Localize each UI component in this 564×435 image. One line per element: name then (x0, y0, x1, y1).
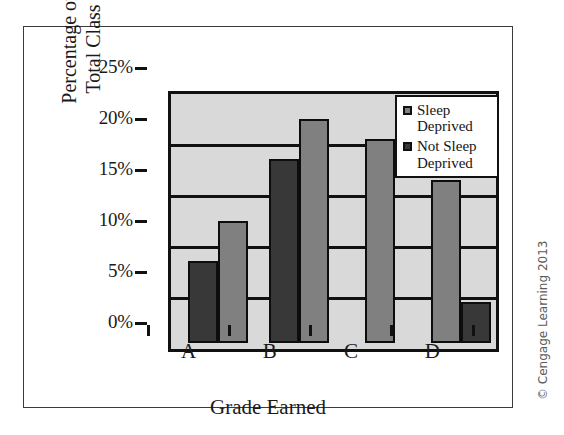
y-tick-mark-0 (135, 322, 147, 325)
y-tick-label-20: 20% (87, 107, 133, 129)
x-tick-mark-0 (147, 325, 150, 336)
legend-label-not-sleep-deprived: Not Sleep Deprived (417, 138, 477, 170)
y-tick-label-15: 15% (87, 158, 133, 180)
y-tick-label-10: 10% (87, 209, 133, 231)
x-category-label-C: C (344, 339, 358, 364)
y-tick-mark-25 (135, 67, 147, 70)
legend-item-sleep-deprived: Sleep Deprived (403, 102, 492, 134)
y-tick-label-0: 0% (87, 311, 133, 333)
x-axis-title: Grade Earned (24, 395, 512, 420)
legend-item-not-sleep-deprived: Not Sleep Deprived (403, 138, 492, 170)
gridline-5 (171, 297, 496, 300)
bar-D-sleep-deprived (431, 180, 461, 343)
copyright-credit: © Cengage Learning 2013 (536, 241, 550, 400)
legend: Sleep DeprivedNot Sleep Deprived (395, 95, 499, 178)
x-tick-mark-3 (390, 325, 393, 336)
y-tick-mark-20 (135, 118, 147, 121)
bar-B-not-sleep-deprived (269, 159, 299, 343)
y-tick-mark-15 (135, 169, 147, 172)
x-tick-mark-4 (472, 325, 475, 336)
legend-swatch-sleep-deprived (403, 106, 412, 115)
x-category-label-B: B (263, 339, 277, 364)
y-tick-mark-5 (135, 271, 147, 274)
y-tick-mark-10 (135, 220, 147, 223)
bar-B-sleep-deprived (299, 119, 329, 343)
x-tick-mark-2 (309, 325, 312, 336)
legend-label-sleep-deprived: Sleep Deprived (417, 102, 473, 134)
y-tick-label-25: 25% (87, 56, 133, 78)
figure-frame: Percentage of Total Class 0%5%10%15%20%2… (23, 26, 513, 408)
y-axis-title-line-1: Percentage of (58, 0, 82, 139)
gridline-15 (171, 195, 496, 198)
bar-A-sleep-deprived (218, 221, 248, 343)
legend-swatch-not-sleep-deprived (403, 142, 412, 151)
x-tick-mark-1 (228, 325, 231, 336)
bar-D-not-sleep-deprived (461, 302, 491, 343)
x-category-label-A: A (181, 339, 196, 364)
x-category-label-D: D (425, 339, 440, 364)
y-tick-label-5: 5% (87, 260, 133, 282)
bar-C-sleep-deprived (365, 139, 395, 343)
bar-A-not-sleep-deprived (188, 261, 218, 343)
gridline-10 (171, 246, 496, 249)
figure-container: Percentage of Total Class 0%5%10%15%20%2… (0, 0, 564, 435)
